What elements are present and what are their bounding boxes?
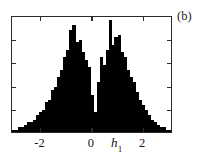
histogram-bars (12, 17, 171, 132)
x-tick-mark (143, 128, 144, 132)
x-tick-label: 2 (139, 136, 145, 150)
panel-label: (b) (177, 9, 192, 23)
y-tick-mark (12, 63, 16, 64)
x-tick-mark (91, 17, 92, 21)
x-tick-mark (40, 17, 41, 21)
histogram-figure: (b) -202 h1 (0, 0, 202, 160)
x-tick-mark (143, 17, 144, 21)
x-tick-mark (40, 128, 41, 132)
y-tick-mark (167, 87, 171, 88)
x-axis-label-base: h (111, 135, 118, 150)
y-tick-mark (167, 40, 171, 41)
x-axis-label: h1 (111, 135, 122, 156)
x-tick-label: -2 (34, 136, 44, 150)
y-tick-mark (12, 110, 16, 111)
y-tick-mark (167, 63, 171, 64)
x-axis-label-subscript: 1 (118, 144, 123, 154)
y-tick-mark (12, 40, 16, 41)
x-tick-mark (91, 128, 92, 132)
y-tick-mark (167, 110, 171, 111)
histogram-bar (169, 130, 171, 132)
y-tick-mark (12, 87, 16, 88)
plot-area (12, 17, 171, 132)
plot-frame (11, 16, 172, 133)
x-tick-label: 0 (88, 136, 94, 150)
